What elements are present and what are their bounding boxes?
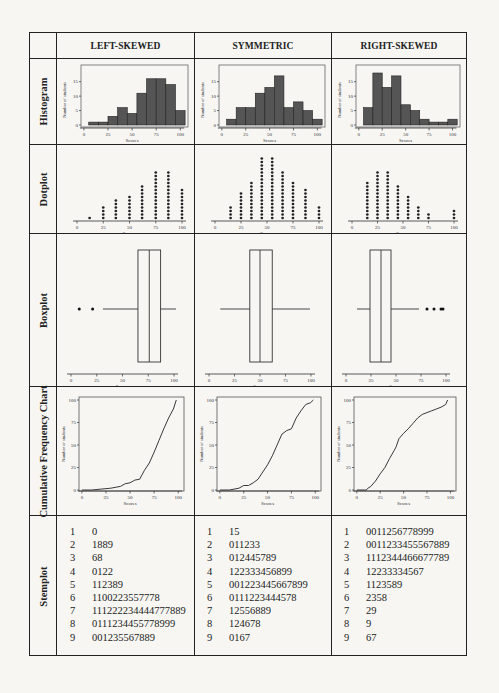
svg-text:Scores: Scores [263, 138, 276, 143]
svg-text:50: 50 [127, 225, 133, 230]
svg-text:0: 0 [349, 488, 352, 493]
svg-text:75: 75 [146, 378, 152, 383]
stemplot-row: 8124678 [207, 617, 308, 630]
svg-text:50: 50 [267, 132, 273, 137]
svg-text:0: 0 [351, 123, 354, 128]
leaves: 2358 [366, 591, 387, 604]
svg-text:50: 50 [401, 495, 407, 500]
svg-text:100: 100 [312, 495, 320, 500]
leaves: 011233 [229, 538, 260, 551]
svg-text:25: 25 [94, 378, 100, 383]
svg-text:25: 25 [239, 225, 245, 230]
leaves: 1889 [92, 538, 113, 551]
svg-text:0: 0 [74, 488, 77, 493]
svg-text:25: 25 [378, 495, 384, 500]
stemplot-row: 5001223445667899 [207, 578, 308, 591]
svg-text:25: 25 [232, 378, 238, 383]
svg-text:50: 50 [209, 443, 215, 448]
leaves: 68 [92, 551, 103, 564]
svg-text:25: 25 [209, 465, 215, 470]
stem: 2 [207, 538, 229, 551]
leaves: 1100223557778 [92, 591, 160, 604]
svg-text:100: 100 [447, 495, 455, 500]
svg-text:75: 75 [154, 132, 160, 137]
stem: 5 [70, 578, 92, 591]
svg-text:75: 75 [427, 132, 433, 137]
svg-text:75: 75 [346, 420, 352, 425]
svg-text:75: 75 [426, 225, 432, 230]
leaves: 111222234444777889 [92, 604, 186, 617]
row-label-histogram: Histogram [30, 59, 57, 144]
column-header-left-skewed: LEFT-SKEWED [57, 33, 194, 58]
svg-text:75: 75 [291, 132, 297, 137]
stemplot-row: 20011233455567889 [344, 538, 450, 551]
stemplot-row: 712556889 [207, 604, 308, 617]
stemplot-row: 7111222234444777889 [70, 604, 186, 617]
svg-text:100: 100 [307, 378, 315, 383]
stem: 9 [207, 631, 229, 644]
svg-text:25: 25 [103, 495, 109, 500]
stem: 3 [344, 551, 366, 564]
svg-text:25: 25 [105, 132, 111, 137]
svg-text:0: 0 [70, 378, 73, 383]
stemplot-row: 61100223557778 [70, 591, 186, 604]
svg-text:Scores: Scores [125, 138, 138, 143]
stemplot-row: 80111234455778999 [70, 617, 186, 630]
stem: 3 [70, 551, 92, 564]
cumulative-frequency-left-skewed: 0255075100Number of students0255075100Sc… [57, 387, 194, 515]
svg-text:75: 75 [283, 378, 289, 383]
stemplot-row: 967 [344, 631, 450, 644]
stem: 4 [207, 565, 229, 578]
svg-text:75: 75 [289, 495, 295, 500]
stemplot-symmetric: 1152011233301244578941223334568995001223… [207, 525, 308, 644]
comparison-table: LEFT-SKEWED SYMMETRIC RIGHT-SKEWED Histo… [29, 32, 467, 656]
stemplot-row: 5112389 [70, 578, 186, 591]
stemplot-row: 729 [344, 604, 450, 617]
stem: 6 [344, 591, 366, 604]
stemplot-row: 31112344466677789 [344, 551, 450, 564]
leaves: 1123589 [366, 578, 402, 591]
svg-text:Scores: Scores [116, 384, 129, 386]
stem: 8 [70, 617, 92, 630]
svg-text:Scores: Scores [261, 501, 274, 506]
leaves: 0011256778999 [366, 525, 434, 538]
svg-text:Number of students: Number of students [61, 426, 66, 462]
stem: 4 [344, 565, 366, 578]
stem: 1 [207, 525, 229, 538]
leaves: 15 [229, 525, 240, 538]
svg-text:0: 0 [356, 495, 359, 500]
svg-text:0: 0 [345, 378, 348, 383]
stem: 7 [344, 604, 366, 617]
svg-text:Scores: Scores [123, 231, 136, 233]
svg-text:50: 50 [265, 495, 271, 500]
svg-text:Scores: Scores [396, 231, 409, 233]
dotplot-symmetric: 0255075100Scores [195, 145, 331, 233]
svg-text:75: 75 [209, 420, 215, 425]
svg-text:Number of students: Number of students [336, 426, 341, 462]
svg-text:15: 15 [348, 79, 354, 84]
svg-text:25: 25 [101, 225, 107, 230]
stemplot-row: 2011233 [207, 538, 308, 551]
svg-text:75: 75 [291, 225, 297, 230]
stem: 8 [207, 617, 229, 630]
svg-text:0: 0 [221, 132, 224, 137]
stem: 4 [70, 565, 92, 578]
leaves: 001235567889 [92, 631, 155, 644]
svg-text:0: 0 [81, 495, 84, 500]
leaves: 122333456899 [229, 565, 292, 578]
svg-text:100: 100 [344, 398, 352, 403]
svg-text:100: 100 [174, 495, 182, 500]
svg-text:Scores: Scores [123, 501, 136, 506]
leaves: 0111234455778999 [92, 617, 175, 630]
stemplot-left-skewed: 1021889368401225112389611002235577787111… [70, 525, 186, 644]
svg-text:0: 0 [212, 488, 215, 493]
leaves: 012445789 [229, 551, 276, 564]
svg-text:75: 75 [152, 495, 158, 500]
stemplot-row: 368 [70, 551, 186, 564]
svg-text:0: 0 [214, 123, 217, 128]
stemplot-row: 90167 [207, 631, 308, 644]
histogram-left-skewed: 051015Number of students0255075100Scores [57, 59, 194, 144]
svg-text:100: 100 [170, 378, 178, 383]
stem: 2 [344, 538, 366, 551]
leaves: 0011233455567889 [366, 538, 450, 551]
